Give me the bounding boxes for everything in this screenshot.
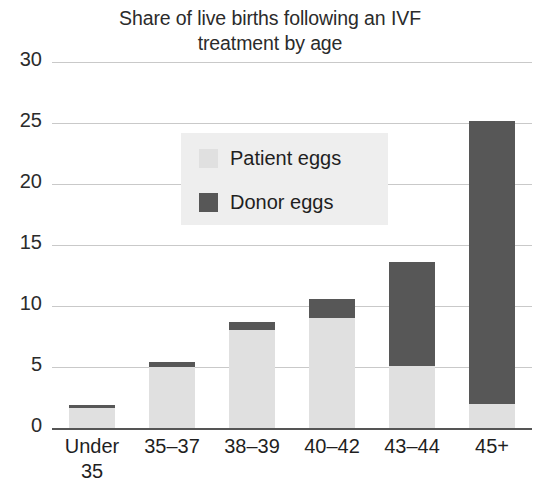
bar-segment-patient-eggs[interactable]	[69, 408, 115, 428]
bar-group[interactable]	[149, 62, 195, 428]
chart-container: Share of live births following an IVF tr…	[0, 0, 538, 488]
legend-item-donor-eggs: Donor eggs	[199, 191, 333, 214]
bar-segment-donor-eggs[interactable]	[69, 405, 115, 409]
bar-segment-donor-eggs[interactable]	[149, 362, 195, 367]
bar-group[interactable]	[469, 62, 515, 428]
gridline	[52, 245, 532, 246]
gridline	[52, 62, 532, 63]
bar-segment-patient-eggs[interactable]	[229, 330, 275, 428]
bar-segment-patient-eggs[interactable]	[149, 367, 195, 428]
plot-area	[52, 62, 532, 428]
y-axis-tick-label: 25	[0, 109, 42, 132]
bar-segment-patient-eggs[interactable]	[469, 404, 515, 428]
x-axis-line	[52, 428, 532, 430]
legend-label-patient-eggs: Patient eggs	[230, 147, 341, 170]
legend-item-patient-eggs: Patient eggs	[199, 147, 341, 170]
legend-swatch-icon-patient-eggs	[199, 149, 218, 168]
x-axis-tick-label: 45+	[437, 434, 538, 459]
bar-group[interactable]	[389, 62, 435, 428]
y-axis-tick-label: 15	[0, 231, 42, 254]
legend-label-donor-eggs: Donor eggs	[230, 191, 333, 214]
bar-segment-patient-eggs[interactable]	[389, 366, 435, 428]
gridline	[52, 306, 532, 307]
y-axis-tick-label: 30	[0, 48, 42, 71]
chart-legend: Patient eggs Donor eggs	[181, 133, 388, 225]
y-axis-tick-label: 10	[0, 292, 42, 315]
legend-swatch-icon-donor-eggs	[199, 193, 218, 212]
bar-segment-donor-eggs[interactable]	[469, 121, 515, 404]
bar-segment-donor-eggs[interactable]	[309, 299, 355, 319]
chart-title: Share of live births following an IVF tr…	[60, 6, 480, 56]
y-axis-tick-label: 5	[0, 353, 42, 376]
bar-group[interactable]	[229, 62, 275, 428]
y-axis-tick-label: 20	[0, 170, 42, 193]
bar-segment-donor-eggs[interactable]	[389, 262, 435, 366]
bar-group[interactable]	[309, 62, 355, 428]
y-axis-tick-label: 0	[0, 414, 42, 437]
gridline	[52, 123, 532, 124]
bar-group[interactable]	[69, 62, 115, 428]
gridline	[52, 367, 532, 368]
bar-segment-donor-eggs[interactable]	[229, 322, 275, 331]
bar-segment-patient-eggs[interactable]	[309, 318, 355, 428]
